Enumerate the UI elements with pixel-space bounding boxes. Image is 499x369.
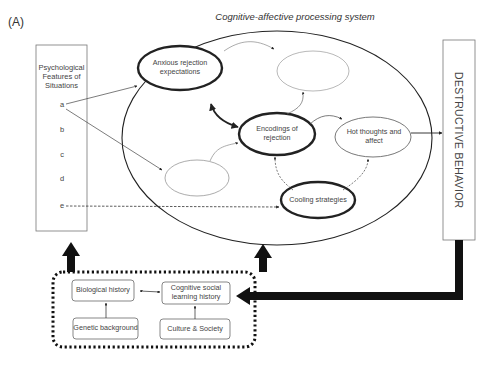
up-arrow-left-head (62, 242, 80, 256)
feature-c: c (58, 150, 66, 159)
arrow-anxious-to-empty-top (224, 42, 274, 51)
arrow-cooling-to-hot (343, 159, 368, 190)
feature-b: b (58, 125, 66, 134)
up-arrow-right-shaft (259, 257, 267, 272)
anxious-rejection-label: Anxious rejection expectations (146, 56, 214, 80)
arrow-empty-left-to-encodings (210, 143, 238, 161)
feedback-arrow-head (236, 287, 250, 305)
hot-thoughts-label: Hot thoughts and affect (346, 125, 402, 149)
feature-e: e (58, 201, 66, 210)
biological-history-label: Biological history (72, 280, 134, 301)
cooling-label: Cooling strategies (285, 194, 351, 206)
situations-heading: Psychological Features of Situations (38, 63, 85, 90)
arrow-cooling-to-encodings (275, 157, 293, 190)
up-arrow-left-shaft (67, 255, 75, 272)
empty-top-node (277, 51, 349, 91)
panel-label: (A) (8, 15, 24, 29)
up-arrow-right-head (254, 244, 272, 258)
cognitive-social-label: Cognitive social learning history (162, 282, 230, 304)
arrow-encodings-to-hot (310, 116, 342, 124)
feature-a: a (58, 100, 66, 109)
arrow-e-to-cooling (66, 206, 279, 207)
empty-left-node (165, 160, 229, 196)
arrow-anxious-encodings (211, 104, 238, 127)
culture-society-label: Culture & Society (160, 319, 230, 339)
diagram-canvas (0, 0, 499, 369)
arrow-bio-cog (140, 291, 160, 292)
feedback-arrow (248, 240, 459, 296)
feature-d: d (58, 174, 66, 183)
encodings-label: Encodings of rejection (247, 122, 307, 146)
behavior-label: DESTRUCTIVE BEHAVIOR (443, 40, 475, 240)
diagram-title: Cognitive-affective processing system (195, 11, 395, 22)
genetic-background-label: Genetic background (73, 318, 138, 339)
arrow-encodings-to-empty-top (287, 92, 303, 114)
